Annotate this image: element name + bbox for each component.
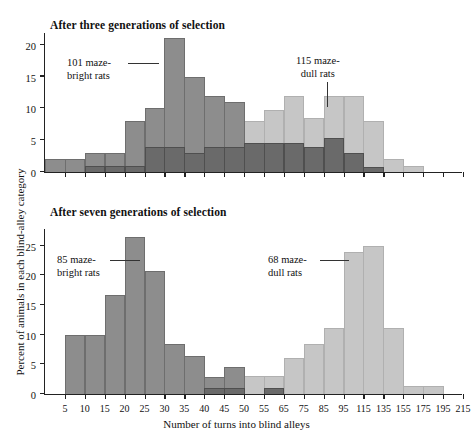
bar-68-maze-dull-rats-155 <box>383 328 404 394</box>
bar-101-maze-bright-rats-10 <box>65 159 86 172</box>
bar-overlap-45 <box>204 147 225 172</box>
bar-68-maze-dull-rats-175 <box>403 386 424 394</box>
x-tick-75 <box>304 394 305 399</box>
bar-overlap-50 <box>224 147 245 172</box>
x-tick-25 <box>145 172 146 177</box>
annotation-line1: 115 maze- <box>296 55 340 68</box>
leader-line-dull-top <box>327 82 328 107</box>
x-tick-15 <box>105 394 106 399</box>
x-tick-5 <box>65 394 66 399</box>
bar-overlap-40 <box>184 153 205 172</box>
bar-68-maze-dull-rats-75 <box>284 358 305 394</box>
x-tick-175 <box>423 172 424 177</box>
leader-line-dull-bottom <box>320 260 349 261</box>
annotation-maze-dull-top: 115 maze- dull rats <box>296 55 340 80</box>
bar-overlap-65 <box>264 143 285 172</box>
bar-overlap-65 <box>264 388 285 394</box>
annotation-line1: 101 maze- <box>67 57 111 70</box>
bar-85-maze-bright-rats-30 <box>145 271 166 394</box>
bar-overlap-75 <box>284 143 305 172</box>
annotation-line1: 68 maze- <box>268 254 307 267</box>
y-tick-label-10: 10 <box>10 104 36 115</box>
y-tick-10 <box>40 107 45 108</box>
x-tick-10 <box>85 394 86 399</box>
x-tick-30 <box>164 172 165 177</box>
y-tick-0 <box>40 393 45 394</box>
x-tick-85 <box>324 172 325 177</box>
chart-title-top: After three generations of selection <box>50 19 225 31</box>
y-tick-5 <box>40 139 45 140</box>
x-axis-title: Number of turns into blind alleys <box>0 418 473 430</box>
bar-115-maze-dull-rats-155 <box>383 159 404 172</box>
annotation-line1: 85 maze- <box>57 254 100 267</box>
x-tick-5 <box>65 172 66 177</box>
bar-overlap-115 <box>344 153 365 172</box>
plot-area-top: 05101520 5101520253035404550556575859511… <box>44 33 462 173</box>
x-tick-175 <box>423 394 424 399</box>
bar-115-maze-dull-rats-175 <box>403 166 424 172</box>
bar-68-maze-dull-rats-135 <box>363 246 384 394</box>
x-tick-95 <box>344 394 345 399</box>
bar-group-top <box>45 33 462 172</box>
leader-line-bright-bottom <box>110 260 140 261</box>
bar-overlap-50 <box>224 388 245 394</box>
bar-85-maze-bright-rats-40 <box>184 356 205 394</box>
y-tick-20 <box>40 44 45 45</box>
x-tick-115 <box>363 172 364 177</box>
annotation-maze-dull-bottom: 68 maze- dull rats <box>268 254 307 279</box>
x-tick-20 <box>125 394 126 399</box>
x-tick-10 <box>85 172 86 177</box>
bar-101-maze-bright-rats-5 <box>45 159 66 172</box>
x-tick-95 <box>344 172 345 177</box>
bar-overlap-85 <box>304 147 325 172</box>
panel-three-generations: After three generations of selection 051… <box>0 0 473 196</box>
x-tick-50 <box>244 394 245 399</box>
x-tick-35 <box>184 172 185 177</box>
x-tick-75 <box>304 172 305 177</box>
x-tick-65 <box>284 172 285 177</box>
x-tick-155 <box>403 394 404 399</box>
bar-115-maze-dull-rats-135 <box>363 121 384 172</box>
x-tick-40 <box>204 394 205 399</box>
x-tick-label-215: 215 <box>450 403 473 414</box>
bar-85-maze-bright-rats-20 <box>105 295 126 394</box>
bar-overlap-45 <box>204 388 225 394</box>
annotation-maze-bright-bottom: 85 maze- bright rats <box>57 254 100 279</box>
y-tick-label-20: 20 <box>10 41 36 52</box>
bar-overlap-30 <box>145 147 166 172</box>
annotation-line2: bright rats <box>67 70 111 83</box>
annotation-line2: dull rats <box>296 68 340 81</box>
annotation-maze-bright-top: 101 maze- bright rats <box>67 57 111 82</box>
bar-overlap-55 <box>244 143 265 172</box>
x-tick-40 <box>204 172 205 177</box>
x-tick-195 <box>443 172 444 177</box>
x-tick-20 <box>125 172 126 177</box>
bar-85-maze-bright-rats-15 <box>85 335 106 394</box>
x-tick-135 <box>383 172 384 177</box>
x-tick-55 <box>264 394 265 399</box>
y-tick-15 <box>40 75 45 76</box>
y-tick-5 <box>40 363 45 364</box>
bar-68-maze-dull-rats-95 <box>324 328 345 394</box>
y-tick-10 <box>40 334 45 335</box>
y-tick-label-15: 15 <box>10 73 36 84</box>
x-tick-135 <box>383 394 384 399</box>
x-tick-215 <box>463 172 464 177</box>
bar-overlap-35 <box>164 147 185 172</box>
annotation-line2: dull rats <box>268 267 307 280</box>
y-tick-0 <box>40 171 45 172</box>
x-tick-115 <box>363 394 364 399</box>
x-tick-15 <box>105 172 106 177</box>
bar-overlap-135 <box>363 167 384 172</box>
y-tick-25 <box>40 245 45 246</box>
bar-overlap-25 <box>125 166 146 172</box>
plot-area-bottom: 0510152025 51015202530354045505565758595… <box>44 229 462 395</box>
x-tick-215 <box>463 394 464 399</box>
x-tick-45 <box>224 394 225 399</box>
x-tick-65 <box>284 394 285 399</box>
x-tick-50 <box>244 172 245 177</box>
bar-overlap-20 <box>105 166 126 172</box>
chart-title-bottom: After seven generations of selection <box>50 206 226 218</box>
y-axis-title: Percent of animals in each blind-alley c… <box>14 152 26 392</box>
annotation-line2: bright rats <box>57 267 100 280</box>
